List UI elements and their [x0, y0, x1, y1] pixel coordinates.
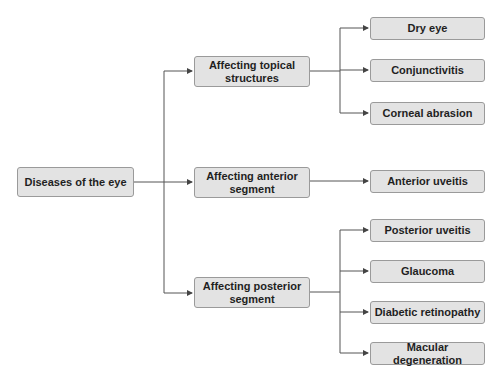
- disease-node: Dry eye: [370, 17, 485, 40]
- disease-node: Anterior uveitis: [370, 170, 485, 193]
- disease-label: Glaucoma: [401, 265, 454, 278]
- disease-label: Posterior uveitis: [384, 224, 470, 237]
- disease-label: Anterior uveitis: [387, 175, 468, 188]
- disease-label: Macular degeneration: [371, 341, 484, 367]
- category-label: Affecting posterior segment: [202, 280, 302, 306]
- category-label: Affecting anterior segment: [202, 170, 302, 196]
- disease-node: Glaucoma: [370, 260, 485, 283]
- disease-node: Diabetic retinopathy: [370, 301, 485, 324]
- disease-node: Corneal abrasion: [370, 102, 485, 125]
- category-node-posterior: Affecting posterior segment: [194, 277, 310, 308]
- disease-label: Dry eye: [408, 22, 448, 35]
- category-node-anterior: Affecting anterior segment: [194, 167, 310, 198]
- disease-label: Corneal abrasion: [383, 107, 473, 120]
- disease-label: Diabetic retinopathy: [375, 306, 481, 319]
- root-label: Diseases of the eye: [24, 176, 126, 189]
- disease-node: Conjunctivitis: [370, 59, 485, 82]
- disease-node: Macular degeneration: [370, 342, 485, 365]
- disease-label: Conjunctivitis: [391, 64, 464, 77]
- root-node: Diseases of the eye: [17, 167, 134, 197]
- category-node-topical: Affecting topical structures: [194, 56, 310, 87]
- disease-node: Posterior uveitis: [370, 219, 485, 242]
- category-label: Affecting topical structures: [202, 59, 302, 85]
